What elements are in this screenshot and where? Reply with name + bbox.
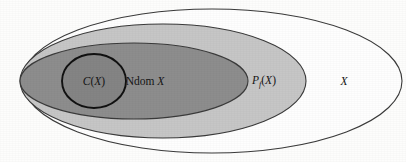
label-pf-close: ) bbox=[272, 74, 276, 87]
label-pf-main: P bbox=[251, 74, 259, 86]
figure-canvas: C(X) Ndom X Pf(X) X bbox=[0, 0, 406, 162]
label-outer-x: X bbox=[339, 75, 348, 87]
label-ndom-x: Ndom X bbox=[126, 75, 166, 87]
euler-diagram: C(X) Ndom X Pf(X) X bbox=[0, 0, 406, 162]
label-c-x-close: ) bbox=[101, 75, 105, 88]
label-c-x: C(X) bbox=[83, 75, 106, 88]
label-ndom-main: Ndom bbox=[126, 75, 155, 87]
label-ndom-var: X bbox=[156, 75, 165, 87]
